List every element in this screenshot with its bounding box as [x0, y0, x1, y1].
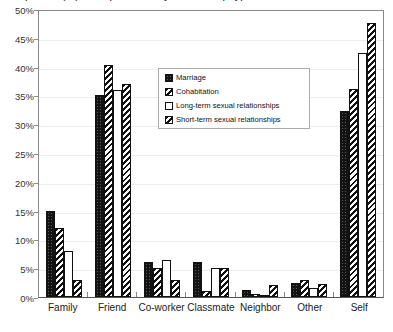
bar — [309, 288, 318, 297]
legend-label: Long-term sexual relationships — [176, 102, 279, 110]
bar-group — [39, 11, 88, 297]
bar — [318, 284, 327, 297]
legend-item: Marriage — [165, 74, 304, 82]
legend-item: Long-term sexual relationships — [165, 102, 304, 110]
legend-label: Marriage — [176, 74, 206, 82]
x-axis-label: Friend — [87, 302, 136, 313]
y-tick-mark — [34, 212, 38, 213]
bar — [340, 111, 349, 297]
y-axis-label: 45% — [0, 33, 34, 44]
y-tick-mark — [34, 39, 38, 40]
x-axis-label: Co-worker — [137, 302, 186, 313]
legend-item: Cohabitation — [165, 88, 304, 96]
y-axis-label: 20% — [0, 177, 34, 188]
bar — [144, 262, 153, 297]
bar — [122, 84, 131, 297]
legend-item: Short-term sexual relationships — [165, 116, 304, 124]
x-axis-label: Neighbor — [236, 302, 285, 313]
bar — [113, 90, 122, 297]
bar — [202, 291, 211, 297]
bar — [358, 53, 367, 297]
legend-swatch-icon — [165, 116, 173, 124]
bar — [153, 268, 162, 297]
y-axis-label: 15% — [0, 206, 34, 217]
legend-swatch-icon — [165, 88, 173, 96]
x-axis-label: Family — [38, 302, 87, 313]
bar — [260, 295, 269, 297]
x-axis-label: Self — [335, 302, 384, 313]
bar — [349, 89, 358, 298]
bar — [300, 280, 309, 297]
bar — [73, 280, 82, 297]
y-axis-label: 0% — [0, 293, 34, 304]
bar-group — [186, 11, 235, 297]
y-axis-label: 10% — [0, 235, 34, 246]
bar-group — [334, 11, 383, 297]
legend-swatch-icon — [165, 74, 173, 82]
legend-label: Cohabitation — [176, 88, 219, 96]
y-tick-mark — [34, 96, 38, 97]
y-tick-mark — [34, 269, 38, 270]
bar — [64, 251, 73, 297]
bar-group — [137, 11, 186, 297]
y-tick-mark — [34, 68, 38, 69]
bar — [95, 95, 104, 297]
bar — [211, 268, 220, 297]
y-axis-label: 30% — [0, 120, 34, 131]
bar — [367, 23, 376, 297]
plot-area — [38, 10, 384, 298]
bar — [55, 228, 64, 297]
x-axis-label: Other — [285, 302, 334, 313]
y-axis-label: 50% — [0, 5, 34, 16]
legend-swatch-icon — [165, 102, 173, 110]
bar — [162, 260, 171, 297]
bar — [46, 211, 55, 297]
x-axis-labels: FamilyFriendCo-workerClassmateNeighborOt… — [38, 302, 384, 313]
y-axis-label: 35% — [0, 91, 34, 102]
bar — [193, 262, 202, 297]
y-tick-mark — [34, 183, 38, 184]
bar-group — [285, 11, 334, 297]
y-tick-mark — [34, 154, 38, 155]
y-axis-label: 5% — [0, 264, 34, 275]
bar — [269, 285, 278, 297]
y-tick-mark — [34, 240, 38, 241]
legend-label: Short-term sexual relationships — [176, 116, 281, 124]
bar — [220, 268, 229, 297]
bar-group — [88, 11, 137, 297]
bar-groups — [39, 11, 383, 297]
y-tick-mark — [34, 125, 38, 126]
bar — [291, 283, 300, 297]
bar — [104, 65, 113, 297]
chart-title: Proportion (%) of respondents by relatio… — [8, 0, 253, 1]
bar — [171, 280, 180, 297]
y-tick-mark — [34, 10, 38, 11]
bar-chart: Proportion (%) of respondents by relatio… — [0, 0, 393, 332]
y-tick-mark — [34, 298, 38, 299]
y-axis-label: 40% — [0, 62, 34, 73]
x-axis-label: Classmate — [186, 302, 235, 313]
bar — [251, 294, 260, 297]
chart-legend: MarriageCohabitationLong-term sexual rel… — [158, 68, 310, 129]
y-axis-label: 25% — [0, 149, 34, 160]
bar-group — [236, 11, 285, 297]
bar — [242, 290, 251, 297]
